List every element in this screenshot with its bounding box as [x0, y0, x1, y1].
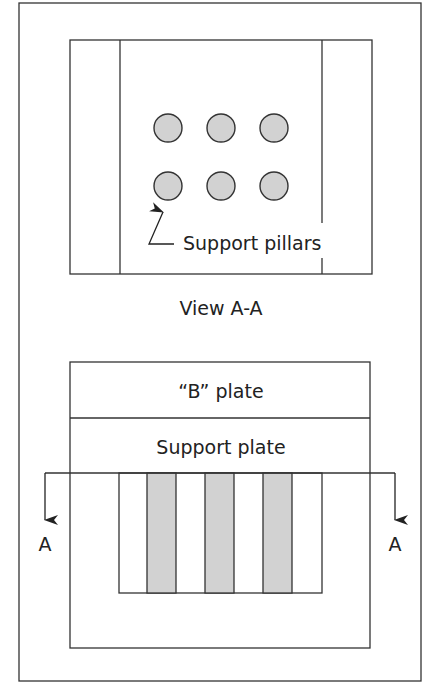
support-plate-label: Support plate — [156, 436, 285, 458]
top-view: Support pillars View A-A — [70, 40, 372, 319]
pillar-circle — [154, 172, 182, 200]
pillar-bar — [205, 473, 234, 593]
section-view: “B” plate Support plate A A — [39, 362, 402, 648]
pillar-circle — [260, 172, 288, 200]
view-caption: View A-A — [179, 297, 262, 319]
pillar-circle — [154, 114, 182, 142]
mold-diagram: Support pillars View A-A “B” plate Suppo… — [0, 0, 429, 690]
callout-leader-arrow-icon — [149, 212, 174, 244]
pillar-circle — [260, 114, 288, 142]
support-pillars-label: Support pillars — [183, 232, 321, 254]
pillar-circle — [207, 114, 235, 142]
section-marker-left: A — [39, 533, 52, 555]
pillar-bar — [147, 473, 176, 593]
section-marker-right: A — [389, 533, 402, 555]
pillar-grid — [154, 114, 288, 200]
b-plate-label: “B” plate — [178, 380, 263, 402]
pillar-bar — [263, 473, 292, 593]
pillar-circle — [207, 172, 235, 200]
